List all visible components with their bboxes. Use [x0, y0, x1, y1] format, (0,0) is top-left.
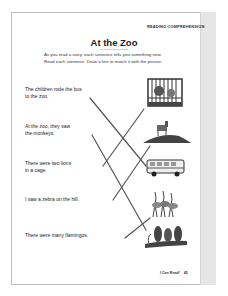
line-lions: [103, 109, 144, 166]
page-number: 45: [184, 271, 188, 275]
matching-lines[interactable]: [0, 0, 228, 296]
line-monkeys: [92, 135, 146, 230]
line-zebra: [113, 146, 150, 200]
lion-cage-icon: [147, 78, 183, 107]
page-footer: I Can Read! 45: [160, 271, 188, 275]
bus-picture: [146, 158, 186, 182]
lions-cage-picture: [147, 78, 183, 111]
line-bus: [90, 98, 146, 166]
bus-icon: [146, 158, 186, 178]
monkeys-picture: [143, 222, 189, 254]
flamingo-icon: [147, 190, 181, 220]
book-title: I Can Read!: [160, 271, 180, 275]
monkeys-icon: [143, 222, 189, 250]
zebra-hill-picture: [141, 118, 191, 150]
flamingos-picture: [147, 190, 181, 224]
zebra-icon: [141, 118, 191, 146]
